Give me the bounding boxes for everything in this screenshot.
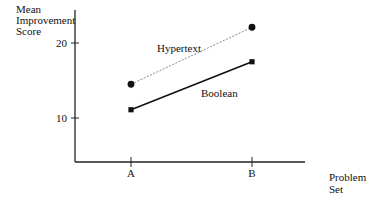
y-tick-label: 20 — [56, 37, 68, 49]
series-layer — [128, 24, 256, 113]
x-tick-label: A — [127, 167, 135, 179]
hypertext-circle-marker — [128, 81, 135, 88]
x-tick-label: B — [248, 167, 255, 179]
boolean-line — [131, 62, 252, 110]
y-tick-label: 10 — [56, 112, 68, 124]
axes: 1020AB — [56, 10, 305, 179]
boolean-square-marker — [128, 107, 133, 112]
boolean-label: Boolean — [201, 87, 238, 99]
boolean-square-marker — [249, 59, 254, 64]
hypertext-line — [131, 27, 252, 84]
hypertext-circle-marker — [249, 24, 256, 31]
hypertext-label: Hypertext — [157, 42, 201, 54]
series-labels: HypertextBoolean — [157, 42, 238, 99]
line-chart: 1020AB HypertextBoolean — [0, 0, 375, 200]
